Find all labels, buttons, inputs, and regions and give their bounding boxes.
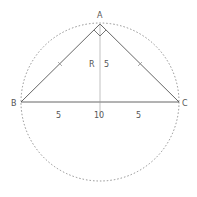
altitude-label: R <box>89 60 95 69</box>
triangle-circle-diagram: A B C R 5 5 10 5 <box>0 0 197 197</box>
label-b: B <box>11 99 17 108</box>
side-ac <box>100 24 179 102</box>
left-segment-length: 5 <box>56 111 61 120</box>
altitude-length: 5 <box>104 60 109 69</box>
label-a: A <box>97 11 103 20</box>
label-c: C <box>182 99 188 108</box>
hypotenuse-length: 10 <box>94 111 104 120</box>
right-segment-length: 5 <box>136 111 141 120</box>
